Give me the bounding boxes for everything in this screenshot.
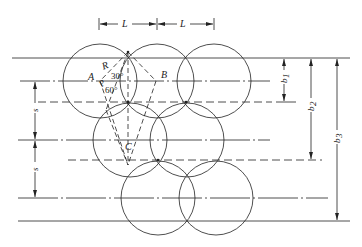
label-b2: b 2 xyxy=(306,101,318,111)
label-R: R xyxy=(99,59,109,72)
svg-text:3: 3 xyxy=(334,133,344,139)
svg-text:1: 1 xyxy=(281,74,291,79)
label-C: C xyxy=(125,141,132,152)
label-B: B xyxy=(161,69,167,80)
svg-text:2: 2 xyxy=(308,101,318,106)
label-L1: L xyxy=(121,18,128,29)
label-s2: s xyxy=(30,167,40,171)
label-s1: s xyxy=(30,108,40,112)
label-angle-30: 30° xyxy=(111,71,124,81)
label-L2: L xyxy=(179,18,186,29)
label-angle-60: 60° xyxy=(105,85,118,95)
label-A: A xyxy=(87,71,95,82)
dimension-L xyxy=(99,18,214,30)
dimension-s xyxy=(33,82,37,197)
label-b1: b 1 xyxy=(279,74,291,84)
label-b3: b 3 xyxy=(332,133,344,143)
coverage-diagram: L L A B C R P 30° 60° s s b 1 b 2 b 3 xyxy=(0,0,362,247)
